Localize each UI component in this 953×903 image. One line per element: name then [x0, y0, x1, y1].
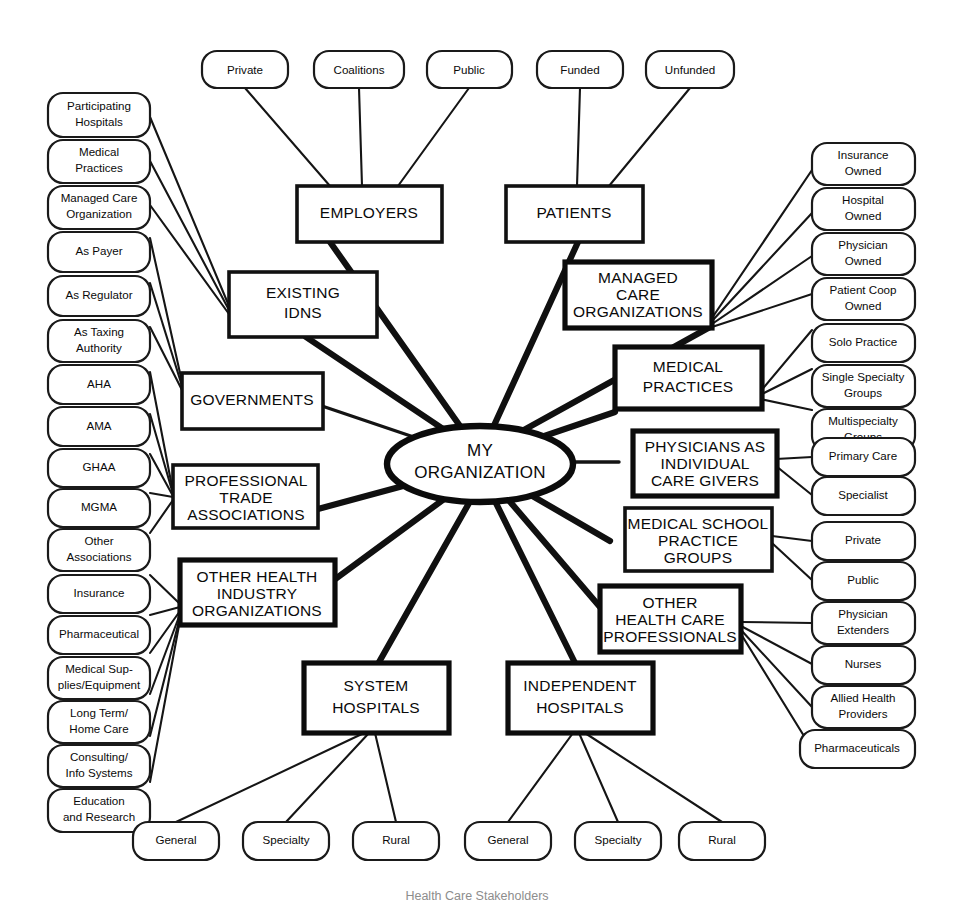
node-other-health-care-professionals[interactable]: OTHER HEALTH CARE PROFESSIONALS: [600, 586, 741, 652]
leaf-rural-system-label: Rural: [382, 833, 410, 846]
node-my-organization[interactable]: MY ORGANIZATION: [387, 426, 573, 502]
leaf-as-regulator[interactable]: As Regulator: [48, 276, 150, 316]
leaf-ghaa[interactable]: GHAA: [48, 449, 150, 487]
leaf-allied-health-providers-label-1: Allied Health: [830, 691, 895, 704]
leaf-as-payer-label: As Payer: [75, 244, 122, 257]
leaf-public-right[interactable]: Public: [812, 562, 915, 600]
leaf-primary-care[interactable]: Primary Care: [812, 438, 915, 476]
node-governments[interactable]: GOVERNMENTS: [182, 373, 323, 429]
node-employers[interactable]: EMPLOYERS: [297, 186, 442, 242]
leaf-medical-supplies-equipment[interactable]: Medical Sup- plies/Equipment: [48, 657, 150, 699]
leaf-allied-health-providers-label-2: Providers: [839, 707, 888, 720]
leaf-funded[interactable]: Funded: [537, 51, 623, 88]
leaf-specialist[interactable]: Specialist: [812, 477, 915, 515]
node-physicians-as-individual-care-givers[interactable]: PHYSICIANS AS INDIVIDUAL CARE GIVERS: [633, 431, 777, 496]
leaf-participating-hospitals-label-2: Hospitals: [75, 115, 123, 128]
edge-mgma-pta: [150, 493, 173, 497]
leaf-private-right[interactable]: Private: [812, 522, 915, 560]
leaf-education-and-research-label-1: Education: [73, 794, 125, 807]
leaf-general-independent[interactable]: General: [465, 822, 551, 860]
leaf-education-and-research-label-2: and Research: [63, 810, 135, 823]
edge-nurses-ohcp: [741, 626, 812, 664]
leaf-nurses-label: Nurses: [845, 657, 882, 670]
leaf-medical-supplies-equipment-label-2: plies/Equipment: [58, 678, 141, 691]
leaf-specialty-system[interactable]: Specialty: [243, 822, 329, 860]
node-independent-hospitals[interactable]: INDEPENDENT HOSPITALS: [508, 663, 653, 733]
node-system-hospitals-label-2: HOSPITALS: [332, 699, 420, 716]
leaf-managed-care-organization[interactable]: Managed Care Organization: [48, 186, 150, 229]
leaf-ama[interactable]: AMA: [48, 407, 150, 446]
edge-pharmaceuticals-ohcp: [741, 634, 812, 749]
leaf-insurance-owned[interactable]: Insurance Owned: [812, 143, 915, 185]
leaf-solo-practice[interactable]: Solo Practice: [812, 324, 915, 362]
leaf-public-right-label: Public: [847, 573, 879, 586]
leaf-managed-care-organization-label-2: Organization: [66, 207, 132, 220]
leaf-education-and-research[interactable]: Education and Research: [48, 789, 150, 832]
leaf-general-system-label: General: [155, 833, 196, 846]
leaf-specialty-system-label: Specialty: [262, 833, 309, 846]
leaf-physician-owned-label-1: Physician: [838, 238, 888, 251]
leaf-physician-extenders-label-1: Physician: [838, 607, 888, 620]
edge-unfunded-patients: [609, 88, 690, 186]
diagram-canvas: Private Coalitions Public Funded Unfunde…: [0, 0, 953, 903]
leaf-private-top[interactable]: Private: [202, 51, 288, 88]
edge-ama-pta: [150, 414, 173, 494]
leaf-ama-label: AMA: [86, 419, 111, 432]
leaf-primary-care-label: Primary Care: [829, 449, 897, 462]
stakeholder-diagram: Private Coalitions Public Funded Unfunde…: [0, 0, 953, 903]
edge-public-right-mspg: [772, 543, 812, 580]
leaf-nurses[interactable]: Nurses: [812, 646, 915, 684]
node-managed-care-organizations[interactable]: MANAGED CARE ORGANIZATIONS: [565, 262, 712, 328]
leaf-medical-practices[interactable]: Medical Practices: [48, 140, 150, 183]
node-medical-practices[interactable]: MEDICAL PRACTICES: [615, 347, 762, 409]
leaf-participating-hospitals[interactable]: Participating Hospitals: [48, 93, 150, 137]
leaf-patient-coop-owned[interactable]: Patient Coop Owned: [812, 278, 915, 320]
leaf-single-specialty-groups[interactable]: Single Specialty Groups: [812, 365, 915, 407]
edge-managed-care-org-idns: [150, 205, 229, 314]
top-row-leaf-group: Private Coalitions Public Funded Unfunde…: [202, 51, 734, 88]
edge-rural-independent-hospitals: [585, 733, 722, 822]
leaf-coalitions[interactable]: Coalitions: [314, 51, 404, 88]
bottom-row-leaf-group: General Specialty Rural General Specialt…: [133, 822, 765, 860]
leaf-patient-coop-owned-label-1: Patient Coop: [829, 283, 896, 296]
leaf-consulting-info-systems[interactable]: Consulting/ Info Systems: [48, 745, 150, 787]
leaf-other-associations[interactable]: Other Associations: [48, 529, 150, 571]
node-picg-label-2: INDIVIDUAL: [661, 455, 750, 472]
edge-other-associations-pta: [150, 500, 173, 533]
leaf-rural-independent[interactable]: Rural: [679, 822, 765, 860]
leaf-managed-care-organization-label-1: Managed Care: [61, 191, 138, 204]
node-system-hospitals[interactable]: SYSTEM HOSPITALS: [304, 663, 449, 733]
leaf-pharmaceutical[interactable]: Pharmaceutical: [48, 616, 150, 654]
leaf-physician-extenders[interactable]: Physician Extenders: [812, 602, 915, 644]
node-other-health-industry-organizations[interactable]: OTHER HEALTH INDUSTRY ORGANIZATIONS: [180, 560, 335, 625]
leaf-physician-owned[interactable]: Physician Owned: [812, 233, 915, 275]
node-picg-label-1: PHYSICIANS AS: [645, 438, 766, 455]
leaf-general-system[interactable]: General: [133, 822, 219, 860]
leaf-mgma-label: MGMA: [81, 500, 117, 513]
leaf-long-term-home-care[interactable]: Long Term/ Home Care: [48, 701, 150, 743]
leaf-pharmaceuticals[interactable]: Pharmaceuticals: [800, 730, 915, 768]
leaf-hospital-owned-label-1: Hospital: [842, 193, 884, 206]
edge-specialty-independent-hospitals: [579, 733, 618, 822]
leaf-as-payer[interactable]: As Payer: [48, 232, 150, 272]
node-professional-trade-associations[interactable]: PROFESSIONAL TRADE ASSOCIATIONS: [173, 465, 318, 528]
leaf-as-taxing-authority-label-2: Authority: [76, 341, 122, 354]
leaf-unfunded[interactable]: Unfunded: [646, 51, 734, 88]
edge-coalitions-employers: [359, 88, 362, 186]
leaf-as-taxing-authority[interactable]: As Taxing Authority: [48, 320, 150, 362]
leaf-aha[interactable]: AHA: [48, 365, 150, 404]
leaf-consulting-info-systems-label-1: Consulting/: [70, 750, 129, 763]
leaf-hospital-owned[interactable]: Hospital Owned: [812, 188, 915, 230]
leaf-specialty-independent[interactable]: Specialty: [575, 822, 661, 860]
edge-general-independent-hospitals: [508, 733, 573, 822]
leaf-rural-system[interactable]: Rural: [353, 822, 439, 860]
node-patients[interactable]: PATIENTS: [506, 186, 643, 242]
leaf-single-specialty-groups-label-1: Single Specialty: [822, 370, 905, 383]
leaf-insurance[interactable]: Insurance: [48, 575, 150, 613]
leaf-allied-health-providers[interactable]: Allied Health Providers: [812, 686, 915, 728]
node-existing-idns[interactable]: EXISTING IDNS: [229, 272, 377, 337]
leaf-public-top[interactable]: Public: [427, 51, 512, 88]
node-medical-school-practice-groups[interactable]: MEDICAL SCHOOL PRACTICE GROUPS: [625, 508, 772, 571]
leaf-mgma[interactable]: MGMA: [48, 489, 150, 527]
leaf-participating-hospitals-label-1: Participating: [67, 99, 131, 112]
